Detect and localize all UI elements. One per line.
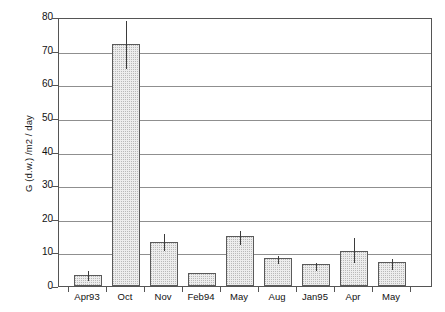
error-bar bbox=[354, 238, 355, 263]
x-tick-label: May bbox=[372, 292, 410, 302]
x-tick-mark bbox=[68, 287, 69, 292]
y-tick-label: 20 bbox=[13, 214, 53, 224]
error-bar bbox=[126, 21, 127, 70]
y-tick-mark bbox=[52, 52, 58, 53]
x-tick-label: Nov bbox=[144, 292, 182, 302]
x-tick-label: Oct bbox=[106, 292, 144, 302]
y-tick-label: 70 bbox=[13, 46, 53, 56]
y-tick-label: 30 bbox=[13, 180, 53, 190]
y-tick-label: 50 bbox=[13, 113, 53, 123]
y-tick-mark bbox=[52, 287, 58, 288]
y-tick-label: 80 bbox=[13, 12, 53, 22]
bar bbox=[188, 273, 216, 286]
y-tick-label: 0 bbox=[13, 281, 53, 291]
error-bar bbox=[164, 234, 165, 251]
x-tick-label: Apr bbox=[334, 292, 372, 302]
y-tick-label: 40 bbox=[13, 147, 53, 157]
error-bar bbox=[316, 263, 317, 271]
y-tick-mark bbox=[52, 153, 58, 154]
y-tick-mark bbox=[52, 220, 58, 221]
y-tick-label: 10 bbox=[13, 247, 53, 257]
error-bar bbox=[392, 259, 393, 269]
error-bar bbox=[88, 271, 89, 281]
y-tick-label: 60 bbox=[13, 79, 53, 89]
y-tick-mark bbox=[52, 119, 58, 120]
error-bar bbox=[278, 256, 279, 264]
x-tick-label: Apr93 bbox=[68, 292, 106, 302]
x-tick-label: May bbox=[220, 292, 258, 302]
y-tick-mark bbox=[52, 85, 58, 86]
x-tick-label: Feb94 bbox=[182, 292, 220, 302]
error-bar bbox=[240, 231, 241, 245]
bar-chart: G (d.w.) /m2 / day 01020304050607080Apr9… bbox=[0, 0, 445, 312]
x-tick-mark bbox=[410, 287, 411, 292]
bar bbox=[112, 44, 140, 286]
x-tick-label: Jan95 bbox=[296, 292, 334, 302]
y-tick-mark bbox=[52, 186, 58, 187]
x-tick-label: Aug bbox=[258, 292, 296, 302]
y-tick-mark bbox=[52, 18, 58, 19]
plot-area bbox=[58, 18, 432, 287]
y-tick-mark bbox=[52, 253, 58, 254]
plot-inner bbox=[59, 19, 431, 286]
